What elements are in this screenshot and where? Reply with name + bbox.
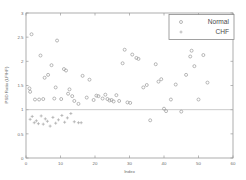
data-point-normal bbox=[38, 98, 41, 101]
data-point-chf bbox=[60, 114, 63, 117]
data-point-normal bbox=[30, 33, 33, 36]
data-point-chf bbox=[46, 120, 49, 123]
data-point-normal bbox=[115, 94, 118, 97]
y-tick-label: 2 bbox=[21, 59, 24, 64]
x-tick-label: 60 bbox=[231, 161, 236, 166]
data-point-normal bbox=[50, 64, 53, 67]
data-point-chf bbox=[33, 121, 36, 124]
y-tick-label: 1.5 bbox=[17, 83, 24, 88]
data-point-normal bbox=[131, 53, 134, 56]
y-tick-label: 3 bbox=[21, 11, 24, 16]
data-point-normal bbox=[202, 54, 205, 57]
data-point-chf bbox=[73, 120, 76, 123]
y-tick-label: 0.5 bbox=[17, 132, 24, 137]
data-point-normal bbox=[197, 98, 200, 101]
legend-label-chf: CHF bbox=[215, 28, 229, 35]
data-point-normal bbox=[189, 55, 192, 58]
data-point-normal bbox=[43, 76, 46, 79]
data-point-chf bbox=[80, 121, 83, 124]
data-point-chf bbox=[40, 114, 43, 117]
data-point-normal bbox=[165, 110, 168, 113]
x-tick-label: 0 bbox=[25, 161, 28, 166]
data-point-normal bbox=[54, 86, 57, 89]
data-point-chf bbox=[51, 116, 54, 119]
data-point-normal bbox=[77, 102, 80, 105]
data-point-normal bbox=[53, 97, 56, 100]
x-tick-labels: 0102030405060 bbox=[25, 161, 236, 166]
y-tick-label: 2.5 bbox=[17, 35, 24, 40]
x-tick-label: 40 bbox=[162, 161, 167, 166]
data-point-chf bbox=[44, 117, 47, 120]
data-point-normal bbox=[123, 48, 126, 51]
data-point-normal bbox=[97, 95, 100, 98]
data-point-normal bbox=[121, 62, 124, 65]
data-point-normal bbox=[71, 95, 74, 98]
data-point-normal bbox=[169, 98, 172, 101]
data-point-normal bbox=[68, 88, 71, 91]
data-point-normal bbox=[88, 78, 91, 81]
data-point-normal bbox=[67, 92, 70, 95]
data-point-chf bbox=[37, 122, 40, 125]
data-point-normal bbox=[28, 87, 31, 90]
data-point-normal bbox=[160, 78, 163, 81]
x-tick-label: 50 bbox=[196, 161, 201, 166]
y-tick-label: 1 bbox=[21, 107, 24, 112]
data-point-chf bbox=[57, 118, 60, 121]
data-point-chf bbox=[63, 121, 66, 124]
series-normal-points bbox=[28, 33, 209, 122]
legend-label-normal: Normal bbox=[208, 18, 230, 25]
data-point-normal bbox=[149, 119, 152, 122]
data-point-normal bbox=[118, 99, 121, 102]
data-point-normal bbox=[85, 96, 88, 99]
data-point-normal bbox=[33, 98, 36, 101]
data-point-normal bbox=[73, 99, 76, 102]
data-point-normal bbox=[29, 90, 32, 93]
data-point-normal bbox=[39, 54, 42, 57]
data-point-normal bbox=[180, 110, 183, 113]
y-tick-label: 0 bbox=[21, 156, 24, 161]
data-point-chf bbox=[49, 125, 52, 128]
x-axis-label: Index bbox=[124, 169, 136, 174]
scatter-plot-figure: 0102030405060 00.511.522.53 Index PSD Ra… bbox=[0, 0, 246, 180]
x-tick-label: 20 bbox=[93, 161, 98, 166]
legend[interactable]: NormalCHF bbox=[169, 15, 234, 40]
plot-canvas: 0102030405060 00.511.522.53 Index PSD Ra… bbox=[0, 0, 246, 180]
data-point-normal bbox=[81, 74, 84, 77]
series-chf-points bbox=[29, 112, 83, 128]
data-point-normal bbox=[92, 99, 95, 102]
data-point-chf bbox=[29, 118, 32, 121]
data-point-normal bbox=[42, 98, 45, 101]
data-point-normal bbox=[154, 63, 157, 66]
data-point-chf bbox=[54, 122, 57, 125]
data-point-chf bbox=[42, 123, 45, 126]
data-point-normal bbox=[101, 97, 104, 100]
data-point-chf bbox=[77, 121, 80, 124]
data-point-normal bbox=[193, 65, 196, 68]
data-point-normal bbox=[185, 73, 188, 76]
data-point-normal bbox=[47, 73, 50, 76]
data-point-normal bbox=[157, 80, 160, 83]
data-point-chf bbox=[31, 115, 34, 118]
y-tick-labels: 00.511.522.53 bbox=[17, 11, 24, 161]
data-point-normal bbox=[104, 93, 107, 96]
data-point-normal bbox=[142, 86, 145, 89]
data-point-normal bbox=[190, 49, 193, 52]
data-point-normal bbox=[174, 83, 177, 86]
data-point-chf bbox=[66, 116, 69, 119]
data-point-normal bbox=[206, 81, 209, 84]
data-point-chf bbox=[69, 112, 72, 115]
x-tick-label: 10 bbox=[58, 161, 63, 166]
data-point-chf bbox=[35, 119, 38, 122]
data-point-normal bbox=[56, 39, 59, 42]
x-tick-label: 30 bbox=[127, 161, 132, 166]
y-axis-label: PSD Ratio (LF/HF) bbox=[4, 66, 9, 103]
data-point-normal bbox=[60, 98, 63, 101]
data-point-normal bbox=[145, 84, 148, 87]
